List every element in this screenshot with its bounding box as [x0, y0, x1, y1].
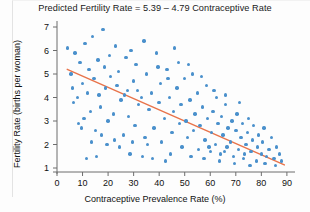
data-point — [169, 152, 172, 155]
data-point — [184, 119, 187, 122]
data-point — [278, 152, 281, 155]
data-point — [198, 124, 201, 127]
data-point — [82, 117, 85, 120]
data-point — [163, 117, 166, 120]
data-point — [272, 157, 275, 160]
data-point — [224, 93, 227, 96]
data-point — [187, 63, 190, 66]
y-tick-label: 4 — [35, 93, 49, 103]
data-point — [262, 126, 265, 129]
data-point — [221, 133, 224, 136]
data-point — [126, 89, 129, 92]
chart-figure: Predicted Fertility Rate = 5.39 – 4.79 C… — [0, 0, 310, 212]
data-point — [214, 143, 217, 146]
data-point — [113, 138, 116, 141]
data-point — [140, 96, 143, 99]
data-point — [196, 91, 199, 94]
data-point — [177, 61, 180, 64]
data-point — [180, 145, 183, 148]
data-point — [117, 70, 120, 73]
data-point — [175, 86, 178, 89]
data-point — [71, 86, 74, 89]
data-point — [143, 136, 146, 139]
data-point — [159, 82, 162, 85]
data-point — [263, 162, 266, 165]
y-tick-label: 3 — [35, 116, 49, 126]
y-tick-label: 5 — [35, 69, 49, 79]
data-point — [89, 110, 92, 113]
scatter-plot-area — [57, 20, 292, 172]
data-point — [165, 68, 168, 71]
data-point — [229, 140, 232, 143]
data-point — [179, 103, 182, 106]
data-point — [91, 35, 94, 38]
data-point — [92, 77, 95, 80]
data-point — [85, 157, 88, 160]
data-point — [192, 129, 195, 132]
data-point — [155, 51, 158, 54]
data-point — [87, 68, 90, 71]
data-point — [115, 84, 118, 87]
data-point — [224, 103, 227, 106]
data-point — [211, 110, 214, 113]
data-point — [105, 143, 108, 146]
data-point — [218, 159, 221, 162]
data-point — [274, 164, 277, 167]
data-point — [96, 58, 99, 61]
data-point — [178, 122, 181, 125]
data-point — [90, 140, 93, 143]
x-tick-label: 60 — [200, 178, 220, 188]
data-point — [242, 157, 245, 160]
data-point — [220, 115, 223, 118]
data-point — [129, 49, 132, 52]
data-point — [122, 133, 125, 136]
x-tick-label: 50 — [175, 178, 195, 188]
y-tick-label: 7 — [35, 22, 49, 32]
data-point — [108, 54, 111, 57]
data-point — [147, 108, 150, 111]
data-point — [78, 61, 81, 64]
data-point — [172, 110, 175, 113]
data-point — [119, 98, 122, 101]
x-axis-label: Contraceptive Prevalence Rate (%) — [0, 194, 310, 204]
data-point — [133, 124, 136, 127]
data-point — [94, 129, 97, 132]
data-point — [248, 164, 251, 167]
data-point — [127, 115, 130, 118]
data-point — [160, 140, 163, 143]
data-point — [69, 72, 72, 75]
data-point — [280, 159, 283, 162]
data-point — [150, 91, 153, 94]
data-point — [112, 112, 115, 115]
data-point — [73, 51, 76, 54]
data-point — [141, 155, 144, 158]
data-point — [128, 152, 131, 155]
data-point — [164, 159, 167, 162]
y-axis-label: Fertility Rate (births per woman) — [12, 40, 22, 168]
data-point — [215, 96, 218, 99]
data-point — [239, 136, 242, 139]
data-point — [225, 145, 228, 148]
data-point — [103, 65, 106, 68]
data-point — [66, 46, 69, 49]
data-point — [186, 136, 189, 139]
data-point — [205, 84, 208, 87]
data-point — [202, 157, 205, 160]
data-point — [270, 136, 273, 139]
data-point — [249, 150, 252, 153]
data-point — [206, 117, 209, 120]
data-point — [189, 155, 192, 158]
x-tick-label: 40 — [149, 178, 169, 188]
data-point — [95, 155, 98, 158]
x-tick-label: 20 — [98, 178, 118, 188]
y-tick-label: 6 — [35, 46, 49, 56]
data-point — [124, 56, 127, 59]
data-point — [219, 152, 222, 155]
data-point — [97, 93, 100, 96]
data-point — [134, 63, 137, 66]
data-point — [80, 126, 83, 129]
data-point — [168, 96, 171, 99]
data-point — [136, 89, 139, 92]
data-point — [137, 103, 140, 106]
data-point — [118, 145, 121, 148]
